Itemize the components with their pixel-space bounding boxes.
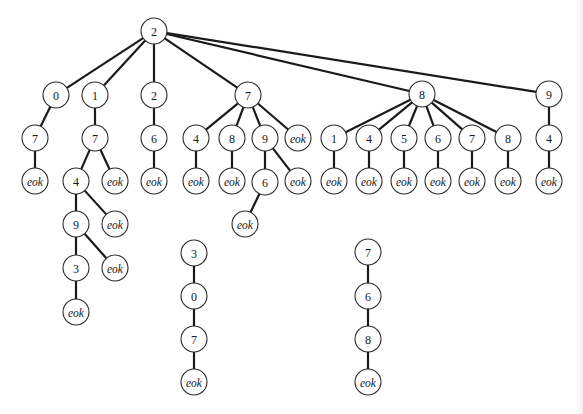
tree-node: 6 [252,169,278,195]
terminal-node: eok [355,369,381,395]
tree-node: 8 [495,125,521,151]
node-label: 2 [151,25,157,39]
tree-node: 4 [356,125,382,151]
tree-edge [85,191,107,215]
tree-node: 5 [391,125,417,151]
terminal-node: eok [285,168,311,194]
tree-edge [85,234,107,259]
node-label: eok [464,176,481,188]
tree-node: 4 [536,125,562,151]
node-label: 6 [151,132,157,146]
node-label: 1 [92,89,98,103]
node-label: 7 [365,246,371,260]
node-label: eok [186,377,203,389]
node-label: 7 [32,132,38,146]
node-label: 9 [546,88,552,102]
node-label: 8 [365,333,371,347]
node-label: eok [107,263,124,275]
nodes-layer: 207eok174eok9eok3eokeok26eok74eok8eok96e… [22,18,562,395]
node-label: eok [500,176,517,188]
tree-node: 2 [141,82,167,108]
node-label: 2 [151,89,157,103]
node-label: 9 [73,218,79,232]
node-label: eok [360,377,377,389]
terminal-node: eok [321,168,347,194]
tree-diagram: 207eok174eok9eok3eokeok26eok74eok8eok96e… [0,0,583,414]
node-label: 5 [401,132,407,146]
node-label: eok [224,176,241,188]
terminal-node: eok [102,211,128,237]
tree-edge [253,107,260,126]
node-label: eok [290,176,307,188]
tree-node: 8 [219,125,245,151]
terminal-node: eok [219,168,245,194]
node-label: eok [146,176,163,188]
node-label: eok [27,176,44,188]
terminal-node: eok [63,299,89,325]
tree-edge [167,34,410,91]
tree-edge [165,38,238,87]
tree-node: 8 [409,81,435,107]
tree-edge [167,33,536,92]
node-label: 4 [193,132,199,146]
node-label: eok [361,176,378,188]
tree-node: 7 [22,125,48,151]
tree-node: 7 [82,125,108,151]
tree-node: 2 [141,18,167,44]
tree-node: 4 [183,125,209,151]
tree-edge [237,107,244,126]
node-label: 8 [229,132,235,146]
terminal-node: eok [183,168,209,194]
edges-layer [35,33,549,369]
terminal-node: eok [459,168,485,194]
tree-node: 9 [63,211,89,237]
tree-node: 1 [321,125,347,151]
node-label: 6 [365,290,371,304]
node-label: 0 [53,89,59,103]
node-label: 7 [92,132,98,146]
tree-node: 4 [63,168,89,194]
tree-edge [100,150,109,169]
node-label: eok [290,133,307,145]
tree-node: 6 [425,125,451,151]
tree-node: 7 [355,239,381,265]
node-label: 8 [505,132,511,146]
node-label: 3 [73,262,79,276]
page-edge-shadow [575,0,583,414]
tree-edge [67,38,143,88]
node-label: eok [541,176,558,188]
node-label: 0 [191,290,197,304]
terminal-node: eok [102,255,128,281]
node-label: 4 [366,132,372,146]
terminal-node: eok [425,168,451,194]
tree-node: 7 [459,125,485,151]
tree-node: 0 [43,82,69,108]
node-label: eok [237,219,254,231]
tree-node: 6 [355,283,381,309]
terminal-node: eok [536,168,562,194]
node-label: 3 [191,247,197,261]
tree-node: 6 [141,125,167,151]
node-label: eok [107,219,124,231]
terminal-node: eok [102,168,128,194]
node-label: 7 [469,132,475,146]
tree-edge [41,107,51,127]
terminal-node: eok [232,211,258,237]
node-label: 4 [73,175,79,189]
node-label: 6 [262,176,268,190]
node-label: 7 [245,89,251,103]
node-label: 1 [331,132,337,146]
terminal-node: eok [22,168,48,194]
node-label: 6 [435,132,441,146]
tree-edge [81,150,89,169]
tree-node: 9 [536,81,562,107]
tree-edge [251,194,260,213]
terminal-node: eok [356,168,382,194]
node-label: eok [68,307,85,319]
tree-node: 9 [252,125,278,151]
tree-node: 0 [181,283,207,309]
tree-edge [409,106,417,126]
node-label: 8 [419,88,425,102]
tree-edge [273,148,290,170]
tree-node: 1 [82,82,108,108]
